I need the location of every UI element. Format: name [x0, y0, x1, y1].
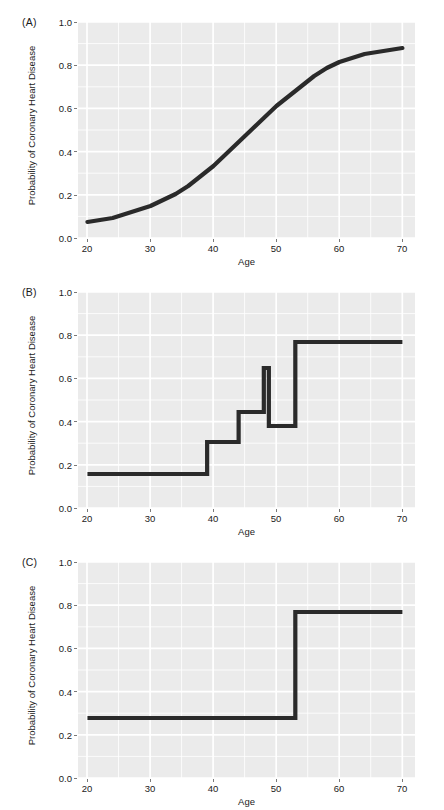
- panel-a-plot-area: [78, 22, 415, 238]
- sigmoid-curve: [87, 48, 402, 222]
- y-tickmark: [74, 562, 77, 563]
- y-tick-label: 0.4: [42, 146, 72, 157]
- x-tickmark: [402, 509, 403, 512]
- x-tickmark: [276, 509, 277, 512]
- y-tickmark: [74, 22, 77, 23]
- y-tickmark: [74, 605, 77, 606]
- panel-a-tag: (A): [22, 16, 37, 28]
- x-tick-label: 20: [67, 783, 107, 794]
- step-function-multi: [87, 342, 402, 474]
- x-tickmark: [150, 239, 151, 242]
- x-tickmark: [339, 779, 340, 782]
- y-tick-label: 0.8: [42, 600, 72, 611]
- x-tickmark: [87, 779, 88, 782]
- y-tickmark: [74, 421, 77, 422]
- x-tickmark: [276, 239, 277, 242]
- x-tickmark: [150, 509, 151, 512]
- panel-b-plot-area: [78, 292, 415, 508]
- x-tick-label: 70: [382, 513, 422, 524]
- y-tickmark: [74, 65, 77, 66]
- step-function-single: [87, 612, 402, 718]
- panel-b: (B) Probability of Coronary Heart Diseas…: [0, 270, 444, 540]
- figure-root: (A) Probability of Coronary Heart Diseas…: [0, 0, 444, 810]
- panel-c: (C) Probability of Coronary Heart Diseas…: [0, 540, 444, 810]
- y-tick-label: 0.6: [42, 103, 72, 114]
- x-tickmark: [213, 239, 214, 242]
- y-tickmark: [74, 691, 77, 692]
- y-tickmark: [74, 195, 77, 196]
- y-tickmark: [74, 378, 77, 379]
- x-tickmark: [339, 239, 340, 242]
- y-tick-label: 1.0: [42, 17, 72, 28]
- panel-a-y-axis-title: Probability of Coronary Heart Disease: [26, 31, 37, 221]
- y-tick-label: 0.2: [42, 459, 72, 470]
- y-tick-label: 1.0: [42, 557, 72, 568]
- x-tick-label: 20: [67, 513, 107, 524]
- panel-a: (A) Probability of Coronary Heart Diseas…: [0, 0, 444, 270]
- y-tick-label: 0.4: [42, 416, 72, 427]
- y-tick-label: 0.8: [42, 60, 72, 71]
- x-tick-label: 40: [193, 243, 233, 254]
- y-tick-label: 0.4: [42, 686, 72, 697]
- y-tickmark: [74, 335, 77, 336]
- y-tick-label: 0.6: [42, 373, 72, 384]
- panel-c-step-curve: [78, 562, 415, 778]
- x-tickmark: [213, 509, 214, 512]
- panel-c-tag: (C): [22, 556, 37, 568]
- y-tick-label: 0.2: [42, 729, 72, 740]
- y-tickmark: [74, 778, 77, 779]
- x-tick-label: 30: [130, 783, 170, 794]
- y-tick-label: 1.0: [42, 287, 72, 298]
- x-tick-label: 50: [256, 783, 296, 794]
- panel-b-y-axis-title: Probability of Coronary Heart Disease: [26, 301, 37, 491]
- x-tick-label: 60: [319, 513, 359, 524]
- y-tickmark: [74, 735, 77, 736]
- y-tickmark: [74, 508, 77, 509]
- panel-a-y-ticks: 1.0 0.8 0.6 0.4 0.2 0.0: [38, 22, 72, 238]
- panel-a-curve: [78, 22, 415, 238]
- panel-b-x-axis-title: Age: [78, 526, 415, 537]
- x-tick-label: 40: [193, 513, 233, 524]
- y-tick-label: 0.8: [42, 330, 72, 341]
- y-tick-label: 0.6: [42, 643, 72, 654]
- panel-c-x-axis-title: Age: [78, 796, 415, 807]
- x-tick-label: 50: [256, 243, 296, 254]
- panel-b-tag: (B): [22, 286, 37, 298]
- x-tickmark: [276, 779, 277, 782]
- x-tickmark: [87, 239, 88, 242]
- x-tick-label: 70: [382, 783, 422, 794]
- x-tick-label: 30: [130, 243, 170, 254]
- panel-b-y-ticks: 1.0 0.8 0.6 0.4 0.2 0.0: [38, 292, 72, 508]
- x-tick-label: 30: [130, 513, 170, 524]
- panel-c-y-axis-title: Probability of Coronary Heart Disease: [26, 571, 37, 761]
- x-tickmark: [87, 509, 88, 512]
- y-tick-label: 0.0: [42, 773, 72, 784]
- x-tick-label: 60: [319, 243, 359, 254]
- y-tick-label: 0.0: [42, 233, 72, 244]
- y-tick-label: 0.2: [42, 189, 72, 200]
- x-tickmark: [339, 509, 340, 512]
- x-tick-label: 70: [382, 243, 422, 254]
- x-tickmark: [150, 779, 151, 782]
- y-tickmark: [74, 465, 77, 466]
- x-tickmark: [402, 239, 403, 242]
- x-tick-label: 50: [256, 513, 296, 524]
- x-tick-label: 40: [193, 783, 233, 794]
- x-tickmark: [213, 779, 214, 782]
- panel-c-y-ticks: 1.0 0.8 0.6 0.4 0.2 0.0: [38, 562, 72, 778]
- x-tick-label: 20: [67, 243, 107, 254]
- y-tickmark: [74, 151, 77, 152]
- panel-c-plot-area: [78, 562, 415, 778]
- y-tickmark: [74, 292, 77, 293]
- panel-a-x-axis-title: Age: [78, 256, 415, 267]
- y-tick-label: 0.0: [42, 503, 72, 514]
- y-tickmark: [74, 108, 77, 109]
- x-tickmark: [402, 779, 403, 782]
- y-tickmark: [74, 648, 77, 649]
- y-tickmark: [74, 238, 77, 239]
- panel-b-step-curve: [78, 292, 415, 508]
- x-tick-label: 60: [319, 783, 359, 794]
